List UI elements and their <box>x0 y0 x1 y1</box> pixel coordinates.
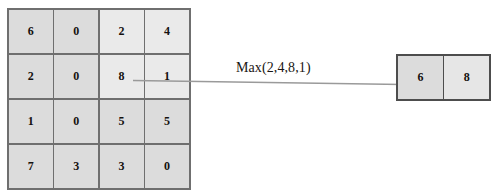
input-cell-r0c2: 2 <box>100 10 144 53</box>
max-pooling-diagram: 6 0 2 4 2 0 8 1 1 0 5 5 7 3 3 0 Max(2,4,… <box>0 0 498 196</box>
input-cell-r0c0: 6 <box>9 10 53 53</box>
input-cell-r2c0: 1 <box>9 100 53 143</box>
input-cell-r0c1: 0 <box>54 10 98 53</box>
input-cell-r3c2: 3 <box>100 145 144 188</box>
output-cell-r0c1: 8 <box>444 56 489 99</box>
input-cell-r0c3: 4 <box>145 10 189 53</box>
input-cell-r1c1: 0 <box>54 55 98 98</box>
output-cell-r0c0: 6 <box>398 56 443 99</box>
input-cell-r1c3: 1 <box>145 55 189 98</box>
input-cell-r1c2: 8 <box>100 55 144 98</box>
input-feature-map: 6 0 2 4 2 0 8 1 1 0 5 5 7 3 3 0 <box>7 8 191 190</box>
input-cell-r3c3: 0 <box>145 145 189 188</box>
input-cell-r3c0: 7 <box>9 145 53 188</box>
input-cell-r2c2: 5 <box>100 100 144 143</box>
input-cell-r1c0: 2 <box>9 55 53 98</box>
input-cell-r2c3: 5 <box>145 100 189 143</box>
output-feature-map: 6 8 <box>396 54 491 101</box>
pool-operation-label: Max(2,4,8,1) <box>236 60 311 76</box>
input-cell-r3c1: 3 <box>54 145 98 188</box>
input-cell-r2c1: 0 <box>54 100 98 143</box>
